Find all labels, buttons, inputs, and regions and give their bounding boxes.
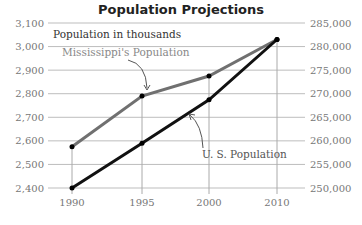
mississippi-arrow-icon	[128, 60, 147, 88]
left-axis-tick: 2,500	[15, 159, 44, 170]
right-axis-tick: 285,000	[310, 18, 351, 29]
right-axis-tick: 280,000	[310, 41, 351, 52]
left-axis-tick: 2,900	[15, 65, 44, 76]
line-chart: 3,100285,0003,000280,0002,900275,0002,80…	[0, 0, 362, 225]
data-point	[140, 94, 145, 99]
mississippi-label: Mississippi's Population	[62, 46, 190, 58]
left-axis-tick: 2,700	[15, 112, 44, 123]
us-line	[72, 40, 277, 189]
right-axis-tick: 275,000	[310, 65, 351, 76]
subtitle: Population in thousands	[53, 28, 181, 40]
right-axis-tick: 250,000	[310, 183, 351, 194]
right-axis-tick: 255,000	[310, 159, 351, 170]
left-axis-tick: 2,600	[15, 135, 44, 146]
right-axis-tick: 265,000	[310, 112, 351, 123]
us-arrow-icon	[190, 115, 203, 148]
left-axis-tick: 3,100	[15, 18, 44, 29]
data-point	[70, 144, 75, 149]
left-axis-tick: 2,800	[15, 88, 44, 99]
data-point	[140, 141, 145, 146]
left-axis-tick: 2,400	[15, 183, 44, 194]
x-axis-tick: 2000	[196, 197, 221, 208]
data-point	[207, 74, 212, 79]
x-axis-tick: 2010	[264, 197, 289, 208]
data-point	[207, 97, 212, 102]
x-axis-tick: 1995	[129, 197, 154, 208]
right-axis-tick: 270,000	[310, 88, 351, 99]
data-point	[70, 186, 75, 191]
x-axis-tick: 1990	[59, 197, 84, 208]
left-axis-tick: 3,000	[15, 41, 44, 52]
data-point	[275, 37, 280, 42]
us-label: U. S. Population	[202, 148, 287, 160]
right-axis-tick: 260,000	[310, 135, 351, 146]
